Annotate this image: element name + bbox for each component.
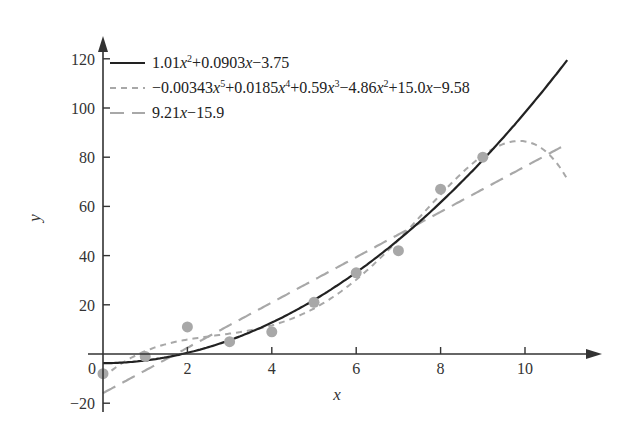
- chart: 0246810−2020406080100120xy 1.01x2+0.0903…: [0, 0, 629, 437]
- y-axis-label: y: [25, 214, 44, 224]
- y-tick-label: 40: [79, 248, 95, 265]
- y-axis-arrow-icon: [98, 36, 108, 52]
- x-axis-label: x: [332, 385, 341, 404]
- y-tick-label: 100: [71, 100, 95, 117]
- curve-dotted-dash: [103, 141, 567, 378]
- legend: 1.01x2+0.0903x−3.75−0.00343x5+0.0185x4+0…: [110, 53, 470, 121]
- x-tick-label: 6: [352, 360, 360, 377]
- data-point: [224, 336, 235, 347]
- x-tick-label: 10: [517, 360, 533, 377]
- data-point: [309, 297, 320, 308]
- y-tick-label: 120: [71, 51, 95, 68]
- data-point: [435, 184, 446, 195]
- x-tick-label: 8: [437, 360, 445, 377]
- data-point: [266, 326, 277, 337]
- data-point: [477, 152, 488, 163]
- y-tick-label: 80: [79, 149, 95, 166]
- x-tick-label: 0: [88, 360, 96, 377]
- x-tick-label: 4: [268, 360, 276, 377]
- data-point: [393, 245, 404, 256]
- x-axis-arrow-icon: [586, 349, 602, 359]
- data-point: [182, 321, 193, 332]
- x-tick-label: 2: [183, 360, 191, 377]
- data-point: [140, 351, 151, 362]
- y-tick-label: −20: [70, 395, 95, 412]
- y-tick-label: 20: [79, 297, 95, 314]
- data-points: [98, 152, 489, 379]
- legend-label-quint: −0.00343x5+0.0185x4+0.59x3−4.86x2+15.0x−…: [152, 78, 470, 96]
- legend-label-quad: 1.01x2+0.0903x−3.75: [152, 53, 289, 71]
- legend-label-lin: 9.21x−15.9: [152, 104, 224, 121]
- data-point: [351, 267, 362, 278]
- y-tick-label: 60: [79, 198, 95, 215]
